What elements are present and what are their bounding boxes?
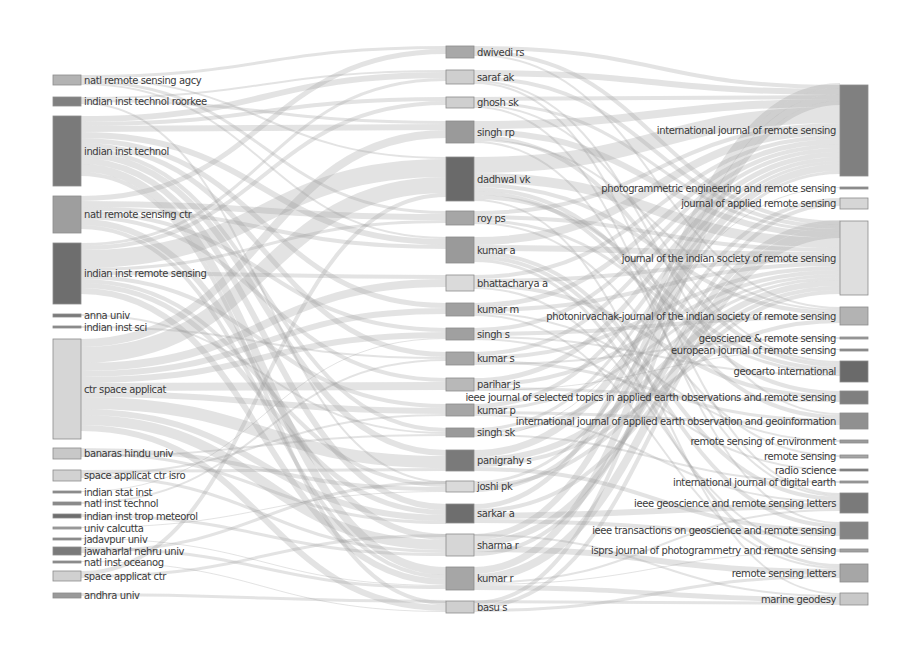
node-bar[interactable]: [446, 46, 474, 58]
node-label: sarkar a: [477, 508, 515, 519]
node-bar[interactable]: [53, 547, 81, 555]
node-natl-remote-sensing-agcy[interactable]: natl remote sensing agcy: [53, 75, 202, 86]
node-singh-sk[interactable]: singh sk: [446, 427, 516, 438]
node-basu-s[interactable]: basu s: [446, 601, 507, 613]
node-bar[interactable]: [53, 470, 81, 481]
node-label: andhra univ: [84, 590, 140, 601]
node-bar[interactable]: [840, 337, 868, 339]
node-dwivedi-rs[interactable]: dwivedi rs: [446, 46, 524, 58]
node-bar[interactable]: [840, 493, 868, 513]
node-marine-geodesy[interactable]: marine geodesy: [761, 593, 868, 605]
node-label: kumar s: [477, 353, 515, 364]
node-ghosh-sk[interactable]: ghosh sk: [446, 97, 519, 108]
node-label: indian inst trop meteorol: [84, 511, 198, 522]
node-bar[interactable]: [840, 221, 868, 295]
node-bar[interactable]: [53, 75, 81, 85]
node-bar[interactable]: [840, 564, 868, 582]
node-bar[interactable]: [53, 448, 81, 459]
node-bar[interactable]: [446, 97, 474, 108]
node-bar[interactable]: [53, 339, 81, 439]
node-bar[interactable]: [446, 450, 474, 471]
node-bar[interactable]: [53, 538, 81, 540]
node-bar[interactable]: [53, 571, 81, 581]
node-label: natl remote sensing agcy: [84, 75, 202, 86]
node-label: singh s: [477, 329, 510, 340]
node-bar[interactable]: [53, 243, 81, 304]
node-bar[interactable]: [446, 157, 474, 201]
node-bar[interactable]: [840, 413, 868, 429]
node-label: banaras hindu univ: [84, 448, 174, 459]
node-label: bhattacharya a: [477, 278, 548, 289]
node-label: natl inst oceanog: [84, 557, 164, 568]
node-bar[interactable]: [53, 527, 81, 529]
node-singh-s[interactable]: singh s: [446, 328, 510, 340]
node-bar[interactable]: [446, 504, 474, 523]
node-bar[interactable]: [446, 534, 474, 556]
node-bar[interactable]: [53, 561, 81, 563]
node-bar[interactable]: [53, 514, 81, 518]
node-bar[interactable]: [446, 404, 474, 416]
node-bar[interactable]: [446, 275, 474, 291]
node-joshi-pk[interactable]: joshi pk: [446, 481, 513, 492]
node-bar[interactable]: [840, 455, 868, 458]
node-bar[interactable]: [446, 481, 474, 492]
node-bar[interactable]: [446, 428, 474, 437]
node-bar[interactable]: [53, 116, 81, 186]
node-bar[interactable]: [446, 211, 474, 225]
node-kumar-s[interactable]: kumar s: [446, 352, 515, 365]
node-parihar-js[interactable]: parihar js: [446, 378, 520, 391]
node-bar[interactable]: [840, 349, 868, 351]
node-bar[interactable]: [840, 549, 868, 552]
node-bar[interactable]: [53, 593, 81, 598]
node-bar[interactable]: [840, 469, 868, 471]
node-bar[interactable]: [840, 481, 868, 483]
node-label: ieee journal of selected topics in appli…: [465, 392, 836, 403]
node-label: remote sensing letters: [732, 568, 836, 579]
node-jawaharlal-nehru-univ[interactable]: jawaharlal nehru univ: [53, 546, 185, 557]
node-journal-of-applied-remote-sensing[interactable]: journal of applied remote sensing: [680, 198, 868, 209]
node-label: singh sk: [477, 427, 516, 438]
node-bar[interactable]: [446, 601, 474, 613]
node-indian-inst-technol-roorkee[interactable]: indian inst technol roorkee: [53, 96, 207, 107]
node-kumar-p[interactable]: kumar p: [446, 404, 516, 416]
node-ieee-journal-of-selected-topics-in-applied-earth-observations-and-remote-sensing[interactable]: ieee journal of selected topics in appli…: [465, 391, 868, 404]
node-bar[interactable]: [446, 70, 474, 84]
node-bar[interactable]: [840, 440, 868, 443]
node-bar[interactable]: [840, 85, 868, 176]
node-isprs-journal-of-photogrammetry-and-remote-sensing[interactable]: isprs journal of photogrammetry and remo…: [591, 545, 868, 556]
node-bar[interactable]: [840, 361, 868, 382]
node-label: panigrahy s: [477, 455, 532, 466]
node-space-applicat-ctr-isro[interactable]: space applicat ctr isro: [53, 470, 185, 481]
node-label: joshi pk: [476, 481, 513, 492]
node-label: indian inst technol roorkee: [84, 96, 207, 107]
node-saraf-ak[interactable]: saraf ak: [446, 70, 515, 84]
node-bar[interactable]: [446, 352, 474, 365]
node-bar[interactable]: [446, 303, 474, 316]
node-bar[interactable]: [446, 328, 474, 340]
node-bar[interactable]: [53, 97, 81, 106]
node-bar[interactable]: [446, 121, 474, 143]
node-bar[interactable]: [53, 326, 81, 328]
node-banaras-hindu-univ[interactable]: banaras hindu univ: [53, 448, 174, 459]
node-label: european journal of remote sensing: [671, 345, 836, 356]
node-bar[interactable]: [840, 198, 868, 209]
node-bar[interactable]: [53, 314, 81, 317]
node-bar[interactable]: [840, 522, 868, 539]
node-label: remote sensing of environment: [690, 436, 836, 447]
node-kumar-m[interactable]: kumar m: [446, 303, 519, 316]
node-bar[interactable]: [53, 196, 81, 233]
node-label: anna univ: [84, 310, 130, 321]
node-bar[interactable]: [446, 378, 474, 391]
node-bar[interactable]: [53, 491, 81, 493]
node-space-applicat-ctr[interactable]: space applicat ctr: [53, 571, 167, 582]
node-label: singh rp: [477, 127, 515, 138]
node-bar[interactable]: [446, 567, 474, 590]
node-bar[interactable]: [840, 391, 868, 404]
node-bar[interactable]: [840, 187, 868, 189]
node-photogrammetric-engineering-and-remote-sensing[interactable]: photogrammetric engineering and remote s…: [601, 183, 868, 194]
node-label: kumar m: [477, 304, 519, 315]
node-bar[interactable]: [53, 502, 81, 505]
node-bar[interactable]: [446, 237, 474, 263]
node-bar[interactable]: [840, 593, 868, 605]
node-bar[interactable]: [840, 307, 868, 325]
